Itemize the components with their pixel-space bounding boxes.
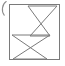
figure-container: [0, 0, 65, 66]
figure-canvas: [0, 0, 65, 66]
